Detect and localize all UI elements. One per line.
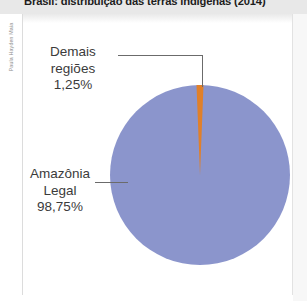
figure-title: Brasil: distribuição das terras indígena… <box>24 0 266 7</box>
page-gutter <box>293 0 307 301</box>
callout-demais-value: 1,25% <box>30 77 116 94</box>
figure-credit: Paula Hayden Maia <box>8 12 14 82</box>
callout-label-amazonia-legal: Amazônia Legal 98,75% <box>12 166 108 216</box>
leader-line-demais-vertical <box>202 55 203 87</box>
card-top-shading <box>23 14 292 23</box>
figure-screenshot: Demais regiões 1,25% Amazônia Legal 98,7… <box>0 0 307 301</box>
callout-demais-name-line1: Demais <box>30 44 116 61</box>
callout-demais-name-line2: regiões <box>30 61 116 78</box>
callout-label-demais-regioes: Demais regiões 1,25% <box>30 44 116 94</box>
leader-line-demais-horizontal <box>118 55 203 56</box>
callout-amazonia-value: 98,75% <box>12 199 108 216</box>
callout-amazonia-name-line2: Legal <box>12 183 108 200</box>
callout-amazonia-name-line1: Amazônia <box>12 166 108 183</box>
figure-title-bar: Brasil: distribuição das terras indígena… <box>0 0 307 14</box>
